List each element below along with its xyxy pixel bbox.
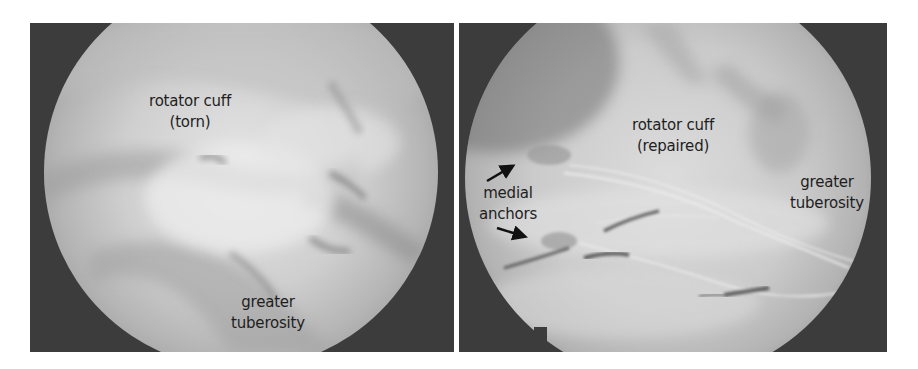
- label-rotator-cuff-line1: rotator cuff: [625, 115, 721, 136]
- label-medial-anchors: medial anchors: [473, 183, 543, 225]
- label-greater-tuberosity-left: greater tuberosity: [223, 292, 313, 334]
- arthroscopy-image-torn: rotator cuff (torn) greater tuberosity: [30, 23, 454, 352]
- label-greater-line1: greater: [223, 292, 313, 313]
- label-repaired-line2: (repaired): [625, 136, 721, 157]
- label-greater-tuberosity-right: greater tuberosity: [781, 172, 873, 214]
- label-torn-line2: (torn): [144, 112, 236, 133]
- label-anchors-line2: anchors: [473, 204, 543, 225]
- label-tuberosity-line2: tuberosity: [223, 313, 313, 334]
- label-rotator-cuff-line1: rotator cuff: [144, 91, 236, 112]
- arthroscopy-image-repaired: rotator cuff (repaired) medial anchors g…: [459, 23, 887, 352]
- label-tuberosity-line2: tuberosity: [781, 193, 873, 214]
- label-medial-line1: medial: [473, 183, 543, 204]
- label-rotator-cuff-repaired: rotator cuff (repaired): [625, 115, 721, 157]
- label-greater-line1: greater: [781, 172, 873, 193]
- label-rotator-cuff-torn: rotator cuff (torn): [144, 91, 236, 133]
